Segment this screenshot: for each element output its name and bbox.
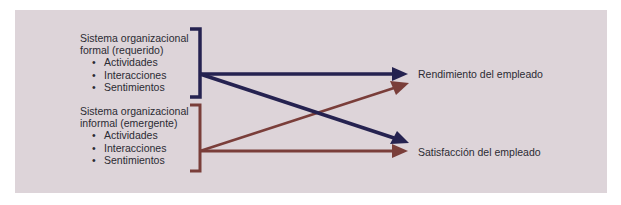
informal-bracket	[190, 105, 200, 171]
bullet-icon: •	[92, 69, 96, 81]
bullet-icon: •	[92, 142, 96, 154]
list-item: •Interacciones	[92, 142, 189, 154]
bullet-icon: •	[92, 81, 96, 93]
bullet-icon: •	[92, 56, 96, 68]
list-item: •Sentimientos	[92, 154, 189, 166]
formal-system-title-line1: Sistema organizacional	[80, 32, 189, 44]
arrow-informal-to-performance	[200, 81, 409, 151]
informal-system-block: Sistema organizacional informal (emergen…	[80, 105, 189, 166]
formal-system-list: •Actividades •Interacciones •Sentimiento…	[80, 56, 189, 93]
informal-system-list: •Actividades •Interacciones •Sentimiento…	[80, 129, 189, 166]
informal-system-title-line2: informal (emergente)	[80, 117, 189, 129]
outcome-satisfaction-label: Satisfacción del empleado	[418, 146, 541, 158]
arrow-formal-to-satisfaction	[200, 74, 409, 144]
informal-system-title-line1: Sistema organizacional	[80, 105, 189, 117]
outcome-performance-label: Rendimiento del empleado	[418, 68, 543, 80]
diagram-connectors	[0, 0, 621, 205]
bullet-icon: •	[92, 129, 96, 141]
list-item: •Actividades	[92, 129, 189, 141]
formal-system-title-line2: formal (requerido)	[80, 44, 189, 56]
bullet-icon: •	[92, 154, 96, 166]
arrow-formal-to-performance	[200, 67, 408, 81]
formal-bracket	[190, 29, 200, 97]
list-item: •Actividades	[92, 56, 189, 68]
list-item: •Interacciones	[92, 69, 189, 81]
formal-system-block: Sistema organizacional formal (requerido…	[80, 32, 189, 93]
list-item: •Sentimientos	[92, 81, 189, 93]
arrow-informal-to-satisfaction	[200, 144, 408, 158]
